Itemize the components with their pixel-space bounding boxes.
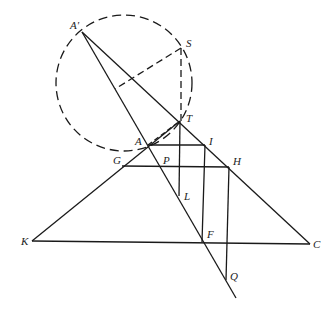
label-h: H [232, 155, 242, 167]
label-q: Q [230, 270, 238, 282]
line-t-l [179, 121, 180, 196]
line-k-c [32, 241, 310, 244]
line-a-prime-c [82, 32, 310, 244]
label-k: K [20, 235, 29, 247]
label-s: S [186, 37, 192, 49]
geometry-diagram: A' S T A I G P H L K F C Q [0, 0, 335, 324]
dashed-segment-s-perp [115, 48, 181, 89]
line-g-h [122, 166, 229, 167]
label-g: G [113, 154, 121, 166]
label-p: P [162, 154, 170, 166]
line-h-q [226, 167, 229, 280]
label-a: A [134, 135, 142, 147]
label-f: F [206, 228, 214, 240]
line-a-prime-q [82, 32, 236, 298]
diagram-svg: A' S T A I G P H L K F C Q [0, 0, 335, 324]
label-c: C [313, 238, 321, 250]
label-i: I [208, 135, 214, 147]
line-i-f [202, 145, 205, 242]
line-k-t [32, 121, 180, 241]
label-t: T [186, 112, 193, 124]
label-a-prime: A' [69, 19, 80, 31]
label-l: L [183, 190, 190, 202]
